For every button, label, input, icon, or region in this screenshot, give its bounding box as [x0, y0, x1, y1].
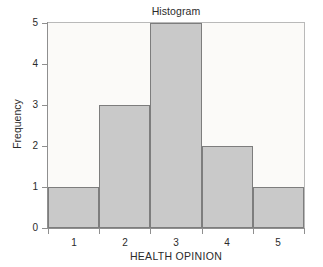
histogram-chart: Histogram 012345 12345 HEALTH OPINION Fr… — [0, 0, 323, 267]
x-axis-tick — [150, 229, 151, 234]
y-axis-tick — [42, 64, 47, 65]
histogram-bar — [202, 146, 253, 228]
x-axis-tick-label: 1 — [64, 237, 84, 248]
x-axis-title: HEALTH OPINION — [47, 250, 305, 262]
y-axis-tick — [42, 146, 47, 147]
x-axis-tick-label: 4 — [217, 237, 237, 248]
y-axis-tick-label: 2 — [22, 141, 38, 151]
y-axis-tick-label: 4 — [22, 59, 38, 69]
y-axis-line — [47, 22, 48, 229]
x-axis-tick — [304, 229, 305, 234]
histogram-bar — [150, 23, 201, 228]
y-axis-tick-label: 3 — [22, 100, 38, 110]
y-axis-tick-label: 0 — [22, 223, 38, 233]
x-axis-tick — [99, 229, 100, 234]
y-axis-title: Frequency — [11, 74, 23, 174]
bars-layer — [48, 23, 304, 228]
plot-area — [47, 22, 305, 229]
x-axis-tick-label: 2 — [115, 237, 135, 248]
plot-background — [48, 23, 304, 228]
x-axis-tick — [48, 229, 49, 234]
y-axis-tick — [42, 23, 47, 24]
x-axis-tick-label: 5 — [268, 237, 288, 248]
y-axis-tick-label: 1 — [22, 182, 38, 192]
y-axis-tick — [42, 228, 47, 229]
chart-title: Histogram — [47, 4, 305, 18]
histogram-bar — [99, 105, 150, 228]
histogram-bar — [253, 187, 304, 228]
x-axis-tick — [202, 229, 203, 234]
y-axis-tick — [42, 105, 47, 106]
x-axis-line — [47, 228, 305, 229]
histogram-bar — [48, 187, 99, 228]
x-axis-tick-label: 3 — [166, 237, 186, 248]
y-axis-tick-label: 5 — [22, 18, 38, 28]
y-axis-tick — [42, 187, 47, 188]
x-axis-tick — [253, 229, 254, 234]
